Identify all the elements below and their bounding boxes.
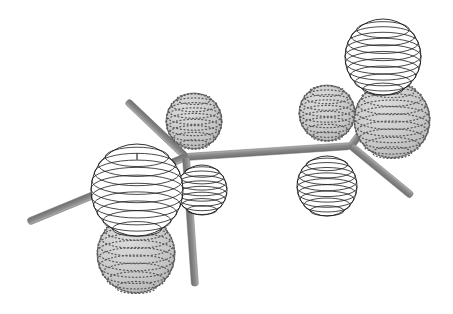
figure-canvas <box>0 0 453 314</box>
right-top-positive-lobe <box>345 19 421 95</box>
left-large-positive-lobe <box>91 144 183 236</box>
left-upper-negative-lobe <box>166 93 222 149</box>
lobe-layer <box>91 19 430 293</box>
right-back-negative-lobe <box>299 85 355 141</box>
molecular-orbital-scene <box>0 0 453 314</box>
left-small-positive-lobe <box>177 165 227 215</box>
right-lower-positive-lobe <box>297 156 357 216</box>
